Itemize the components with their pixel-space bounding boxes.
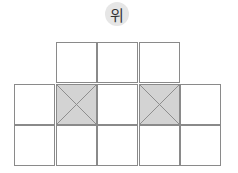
grid-cell — [14, 84, 55, 125]
grid-cell — [139, 125, 180, 166]
grid-cell — [139, 42, 180, 83]
grid-cell — [56, 125, 97, 166]
grid-cell — [97, 84, 138, 125]
x-mark-icon — [57, 85, 96, 124]
shaded-cell-with-x — [56, 84, 97, 125]
grid-cell — [97, 125, 138, 166]
grid-cell — [56, 42, 97, 83]
grid-cell — [180, 125, 221, 166]
grid-cell — [14, 125, 55, 166]
x-mark-icon — [140, 85, 179, 124]
grid-cell — [97, 42, 138, 83]
grid-cell — [180, 84, 221, 125]
direction-label-top: 위 — [105, 2, 129, 26]
shaded-cell-with-x — [139, 84, 180, 125]
